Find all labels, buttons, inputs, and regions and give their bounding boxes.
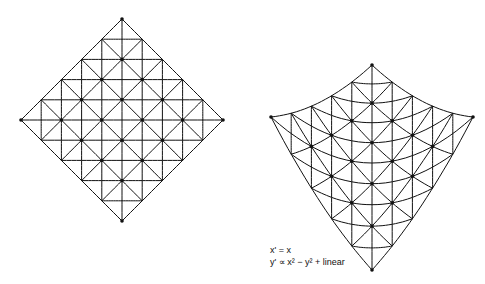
mesh-node-dot — [370, 63, 374, 67]
mesh-node-dot — [120, 138, 124, 142]
mesh-node-dot — [350, 159, 354, 163]
mesh-node-dot — [80, 138, 84, 142]
mesh-node-dot — [120, 98, 124, 102]
mesh-node-dot — [221, 118, 225, 122]
mesh-node-dot — [431, 145, 435, 149]
mesh-node-dot — [411, 175, 415, 179]
mesh-line — [82, 80, 183, 181]
mesh-node-dot — [370, 224, 374, 228]
mesh-node-dot — [350, 119, 354, 123]
mesh-node-dot — [370, 268, 374, 272]
mesh-node-dot — [140, 78, 144, 82]
mesh-node-dot — [330, 175, 334, 179]
mesh-node-dot — [120, 219, 124, 223]
mesh-node-dot — [161, 98, 165, 102]
mesh-node-dot — [390, 119, 394, 123]
mesh-node-dot — [390, 201, 394, 205]
mesh-node-dot — [19, 118, 23, 122]
mesh-line — [82, 59, 183, 160]
mesh-figure — [0, 0, 485, 284]
mesh-line — [41, 39, 142, 140]
mesh-line — [41, 100, 142, 201]
mesh-node-dot — [269, 115, 273, 119]
mesh-node-dot — [100, 118, 104, 122]
mesh-node-dot — [120, 58, 124, 62]
mesh-node-dot — [100, 78, 104, 82]
mesh-node-dot — [370, 141, 374, 145]
mesh-node-dot — [370, 182, 374, 186]
mesh-line — [21, 19, 122, 120]
mesh-line — [61, 59, 162, 160]
mesh-node-dot — [60, 118, 64, 122]
mesh-line — [271, 65, 372, 117]
mesh-node-dot — [310, 145, 314, 149]
transform-caption: x' = x y' ∝ x² − y² + linear — [270, 244, 345, 268]
mesh-line — [372, 65, 473, 117]
mesh-line — [61, 80, 162, 181]
mesh-node-dot — [370, 101, 374, 105]
mesh-node-dot — [471, 115, 475, 119]
caption-y-equation: y' ∝ x² − y² + linear — [270, 256, 345, 268]
mesh-line — [102, 100, 203, 201]
mesh-line — [102, 39, 203, 140]
original-mesh — [21, 19, 223, 221]
caption-x-equation: x' = x — [270, 244, 345, 256]
mesh-node-dot — [181, 118, 185, 122]
mesh-line — [21, 120, 122, 221]
mesh-node-dot — [161, 138, 165, 142]
mesh-node-dot — [330, 134, 334, 138]
mesh-node-dot — [80, 98, 84, 102]
mesh-node-dot — [100, 159, 104, 163]
transformed-mesh — [271, 65, 473, 270]
mesh-node-dot — [120, 17, 124, 21]
mesh-node-dot — [140, 159, 144, 163]
mesh-node-dot — [390, 159, 394, 163]
mesh-line — [122, 19, 223, 120]
mesh-node-dot — [140, 118, 144, 122]
mesh-node-dot — [411, 134, 415, 138]
mesh-node-dot — [120, 179, 124, 183]
mesh-line — [122, 120, 223, 221]
mesh-node-dot — [350, 201, 354, 205]
